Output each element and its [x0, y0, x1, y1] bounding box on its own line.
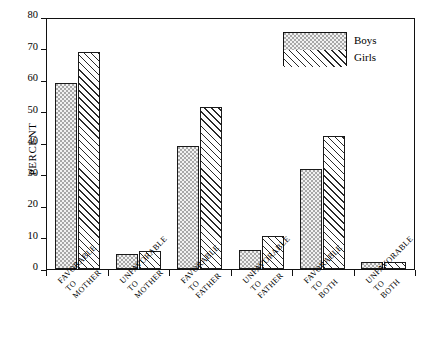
y-tick-label: 70 — [28, 42, 39, 53]
y-tick-label: 0 — [33, 262, 38, 273]
legend-label-boys: Boys — [354, 34, 377, 46]
y-tick-label: 20 — [28, 199, 39, 210]
y-tick-label: 30 — [28, 168, 39, 179]
chart-legend: Boys Girls — [283, 32, 347, 66]
bar-group — [47, 19, 108, 268]
x-tick-mark — [46, 270, 47, 276]
legend-label-girls: Girls — [354, 51, 376, 63]
legend-swatch-boys-icon — [284, 33, 346, 51]
y-tick-label: 80 — [28, 10, 39, 21]
y-tick-label: 60 — [28, 73, 39, 84]
y-tick-label: 10 — [28, 231, 39, 242]
bar-chart: PERCENT 01020304050607080 FAVORABLETOMOT… — [0, 0, 435, 349]
y-tick-label: 40 — [28, 136, 39, 147]
bar-boys — [55, 83, 77, 268]
legend-row-boys: Boys — [284, 33, 346, 50]
legend-swatch-girls-icon — [284, 50, 346, 67]
y-tick-label: 50 — [28, 105, 39, 116]
legend-row-girls: Girls — [284, 50, 346, 67]
